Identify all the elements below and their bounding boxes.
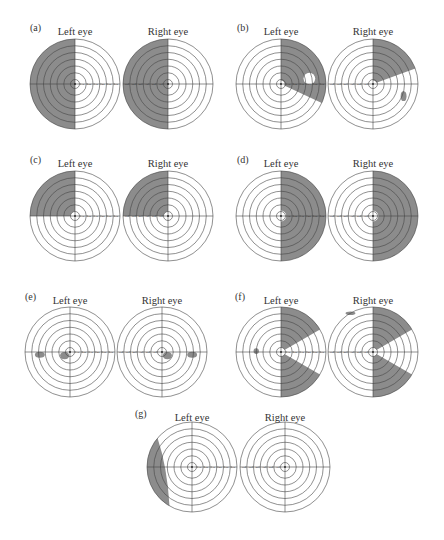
tick-mark [279,467,280,468]
scotoma-sector [281,354,320,397]
eccentricity-tick-label: 20 [294,351,297,354]
tick-mark [347,352,348,353]
eccentricity-tick-label: 40 [219,466,222,469]
tick-mark [128,84,129,85]
eccentricity-tick-label: 60 [115,83,118,86]
eccentricity-tick-label: 20 [88,215,91,218]
panel-label: (c) [30,154,41,166]
eccentricity-tick-label: 50 [104,351,107,354]
tick-mark [142,216,143,217]
visual-field-figure: (a)Left eye102030405060Right eye10203040… [0,0,444,540]
panel-label: (b) [237,22,249,34]
eccentricity-tick-label: 60 [232,466,235,469]
fixation-point [280,351,282,353]
eccentricity-tick-label: 40 [256,466,259,469]
panel-label: (e) [25,291,36,303]
panels-group: (a)Left eye102030405060Right eye10203040… [25,22,418,512]
left-eye-field: Left eye102030405060 [236,295,326,397]
scotoma-spot [35,352,45,358]
left-eye-title: Left eye [58,158,93,169]
right-eye-title: Right eye [353,26,394,37]
tick-mark [142,352,143,353]
eccentricity-tick-label: 10 [77,351,80,354]
eccentricity-tick-label: 10 [82,83,85,86]
eccentricity-tick-label: 20 [205,466,208,469]
panel-label: (d) [237,154,249,166]
eccentricity-tick-label: 60 [110,351,113,354]
tick-mark [259,467,260,468]
eccentricity-tick-label: 30 [95,215,98,218]
eccentricity-tick-label: 60 [330,83,333,86]
scotoma-sector [123,171,168,216]
right-eye-title: Right eye [148,158,189,169]
scotoma-sector [373,354,412,397]
eccentricity-tick-label: 30 [350,351,353,354]
eccentricity-tick-label: 40 [308,351,311,354]
eccentricity-tick-label: 50 [315,351,318,354]
eccentricity-tick-label: 10 [199,466,202,469]
tick-mark [155,216,156,217]
left-eye-title: Left eye [53,295,88,306]
eccentricity-tick-label: 10 [364,215,367,218]
panel-label: (g) [135,408,147,420]
right-eye-field: Right eye102030405060 [123,26,213,129]
left-eye-title: Left eye [264,26,299,37]
right-eye-title: Right eye [353,295,394,306]
tick-mark [340,216,341,217]
tick-mark [353,84,354,85]
tick-mark [360,84,361,85]
fixation-point [372,351,374,353]
eccentricity-tick-label: 20 [83,351,86,354]
left-eye-title: Left eye [264,295,299,306]
panel-f: (f)Left eye102030405060Right eye10203040… [235,291,418,397]
tick-mark [340,352,341,353]
right-eye-field: Right eye102030405060 [328,158,418,261]
tick-mark [245,467,246,468]
eccentricity-tick-label: 20 [146,351,149,354]
eccentricity-tick-label: 40 [133,351,136,354]
panel-d: (d)Left eye102030405060Right eye10203040… [236,154,418,261]
eccentricity-tick-label: 10 [153,351,156,354]
fixation-point [161,351,163,353]
fixation-point [74,215,76,217]
eccentricity-tick-label: 40 [102,83,105,86]
panel-a: (a)Left eye102030405060Right eye10203040… [30,22,213,129]
left-eye-field: Left eye102030405060 [147,412,237,512]
tick-mark [367,352,368,353]
tick-mark [136,352,137,353]
tick-mark [360,216,361,217]
temporal-crescent [147,438,170,506]
eccentricity-tick-label: 40 [102,215,105,218]
tick-mark [142,84,143,85]
scotoma-sector [30,171,75,216]
eccentricity-tick-label: 20 [357,83,360,86]
eccentricity-tick-label: 50 [337,83,340,86]
right-eye-title: Right eye [148,26,189,37]
eccentricity-tick-label: 60 [119,351,122,354]
tick-mark [367,84,368,85]
fixation-point [280,215,282,217]
fixation-point [191,466,193,468]
left-eye-title: Left eye [175,412,210,423]
eccentricity-tick-label: 50 [109,83,112,86]
eccentricity-tick-label: 50 [337,215,340,218]
tick-mark [360,352,361,353]
tick-mark [353,216,354,217]
right-eye-field: Right eye102030405060 [117,295,207,397]
fixation-point [372,215,374,217]
tick-mark [135,216,136,217]
eccentricity-tick-label: 60 [330,215,333,218]
eccentricity-tick-label: 50 [337,351,340,354]
panel-b: (b)Left eye102030405060Right eye10203040… [236,22,418,129]
right-eye-field: Right eye102030405060 [240,412,330,512]
eccentricity-tick-label: 40 [344,351,347,354]
eccentricity-tick-label: 10 [288,351,291,354]
eccentricity-tick-label: 30 [350,215,353,218]
eccentricity-tick-label: 30 [90,351,93,354]
panel-c: (c)Left eye102030405060Right eye10203040… [30,154,213,261]
tick-mark [162,216,163,217]
fixation-point [74,83,76,85]
eccentricity-tick-label: 10 [276,466,279,469]
eccentricity-tick-label: 20 [88,83,91,86]
eccentricity-tick-label: 20 [357,351,360,354]
